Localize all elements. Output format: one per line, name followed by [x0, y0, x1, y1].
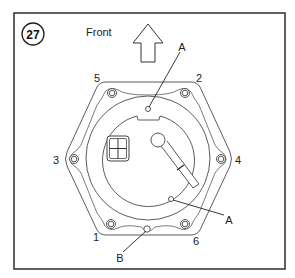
leader-hole-b	[123, 231, 146, 252]
callout-b: B	[116, 252, 123, 264]
fuel-fitting-tube	[151, 133, 199, 188]
bolt-label-4: 4	[235, 154, 241, 166]
alignment-pin-a-lower	[169, 197, 174, 202]
seal-ring-outer	[86, 96, 210, 220]
alignment-pin-a-top	[146, 107, 151, 112]
bolt-hole-1-inner	[108, 221, 114, 227]
electrical-connector-icon	[107, 136, 129, 161]
bolt-hole-4-inner	[218, 156, 224, 162]
bolt-label-1: 1	[93, 231, 99, 243]
bolt-hole-3-inner	[71, 156, 77, 162]
front-arrow-icon	[133, 24, 163, 62]
flange-outer-outline	[66, 82, 232, 235]
locating-hole-b	[144, 226, 150, 232]
bolt-hole-2-inner	[182, 90, 188, 96]
fuel-tank-module-diagram: 27 Front	[0, 0, 295, 278]
callout-a-top: A	[178, 41, 186, 53]
bolt-hole-5-inner	[109, 90, 115, 96]
bolt-label-2: 2	[196, 72, 202, 84]
figure-number: 27	[26, 28, 40, 42]
callout-a-lower: A	[225, 214, 233, 226]
front-label: Front	[86, 26, 112, 38]
bolt-label-5: 5	[94, 72, 100, 84]
leader-pin-a-lower	[173, 200, 224, 215]
figure-number-badge: 27	[22, 23, 44, 45]
bolt-label-6: 6	[193, 235, 199, 247]
bolt-label-3: 3	[53, 154, 59, 166]
bolt-hole-6-inner	[182, 221, 188, 227]
